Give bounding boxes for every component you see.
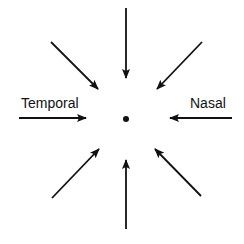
- arrow-from-top-left-icon: [51, 42, 98, 89]
- arrow-from-top-right-icon: [157, 42, 202, 89]
- label-temporal: Temporal: [21, 95, 79, 111]
- label-nasal: Nasal: [190, 95, 226, 111]
- arrow-from-bottom-left-icon: [52, 149, 99, 198]
- arrow-from-bottom-right-icon: [155, 149, 201, 196]
- diagram-canvas: Temporal Nasal: [0, 0, 244, 244]
- center-point: [123, 116, 129, 122]
- arrows-layer: [0, 0, 244, 244]
